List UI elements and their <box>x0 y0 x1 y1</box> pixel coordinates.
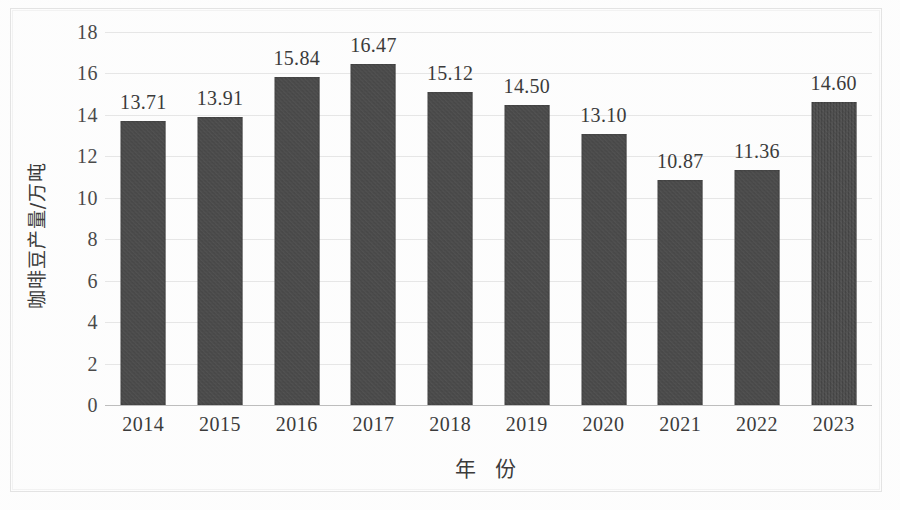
bar-value-label: 11.36 <box>734 141 780 161</box>
bar-group: 15.84 <box>258 32 335 405</box>
bar-group: 13.91 <box>182 32 259 405</box>
y-axis-tick-label: 18 <box>58 22 98 42</box>
bar-group: 10.87 <box>642 32 719 405</box>
bar-value-label: 14.50 <box>504 76 551 96</box>
bar <box>811 102 856 405</box>
x-axis-tick-label: 2021 <box>642 414 719 434</box>
bar-chart: 181614121086420 13.7113.9115.8416.4715.1… <box>0 0 900 510</box>
bar-value-label: 16.47 <box>350 35 397 55</box>
bar-value-label: 15.12 <box>427 63 474 83</box>
x-axis-tick-label: 2015 <box>182 414 259 434</box>
x-axis-tick-label: 2019 <box>489 414 566 434</box>
y-axis-tick-label: 16 <box>58 63 98 83</box>
x-axis-tick-label: 2022 <box>719 414 796 434</box>
x-axis-tick-label: 2014 <box>105 414 182 434</box>
bar-value-label: 14.60 <box>810 73 857 93</box>
bar <box>351 64 396 405</box>
bar-group: 16.47 <box>335 32 412 405</box>
bar-value-label: 13.71 <box>120 92 167 112</box>
x-axis-tick-label: 2017 <box>335 414 412 434</box>
x-axis-title: 年 份 <box>105 452 872 482</box>
bar <box>198 117 243 405</box>
bar <box>428 92 473 405</box>
x-axis-tick-labels: 2014201520162017201820192020202120222023 <box>105 414 872 444</box>
bar-group: 13.71 <box>105 32 182 405</box>
bar-group: 14.50 <box>489 32 566 405</box>
bar-group: 11.36 <box>719 32 796 405</box>
chart-page: 181614121086420 13.7113.9115.8416.4715.1… <box>0 0 900 510</box>
bar-value-label: 10.87 <box>657 151 704 171</box>
x-axis-line <box>105 405 872 406</box>
bar <box>504 105 549 405</box>
bar-group: 15.12 <box>412 32 489 405</box>
y-axis-tick-label: 4 <box>58 312 98 332</box>
bar <box>121 121 166 405</box>
y-axis-tick-label: 14 <box>58 105 98 125</box>
bar-value-label: 15.84 <box>273 48 320 68</box>
bar <box>581 134 626 405</box>
y-axis-tick-label: 6 <box>58 271 98 291</box>
bar-group: 14.60 <box>795 32 872 405</box>
y-axis-tick-label: 12 <box>58 146 98 166</box>
bar-value-label: 13.10 <box>580 105 627 125</box>
y-axis-tick-label: 0 <box>58 395 98 415</box>
bar <box>658 180 703 405</box>
y-axis-tick-label: 2 <box>58 354 98 374</box>
x-axis-tick-label: 2016 <box>258 414 335 434</box>
y-axis-tick-labels: 181614121086420 <box>50 0 98 510</box>
bar <box>734 170 779 405</box>
plot-area: 13.7113.9115.8416.4715.1214.5013.1010.87… <box>105 32 872 405</box>
y-axis-tick-label: 10 <box>58 188 98 208</box>
x-axis-tick-label: 2020 <box>565 414 642 434</box>
bar-group: 13.10 <box>565 32 642 405</box>
bar-value-label: 13.91 <box>197 88 244 108</box>
y-axis-tick-label: 8 <box>58 229 98 249</box>
x-axis-tick-label: 2023 <box>795 414 872 434</box>
y-axis-title: 咖啡豆产量/万吨 <box>22 136 49 336</box>
x-axis-tick-label: 2018 <box>412 414 489 434</box>
bar <box>274 77 319 405</box>
